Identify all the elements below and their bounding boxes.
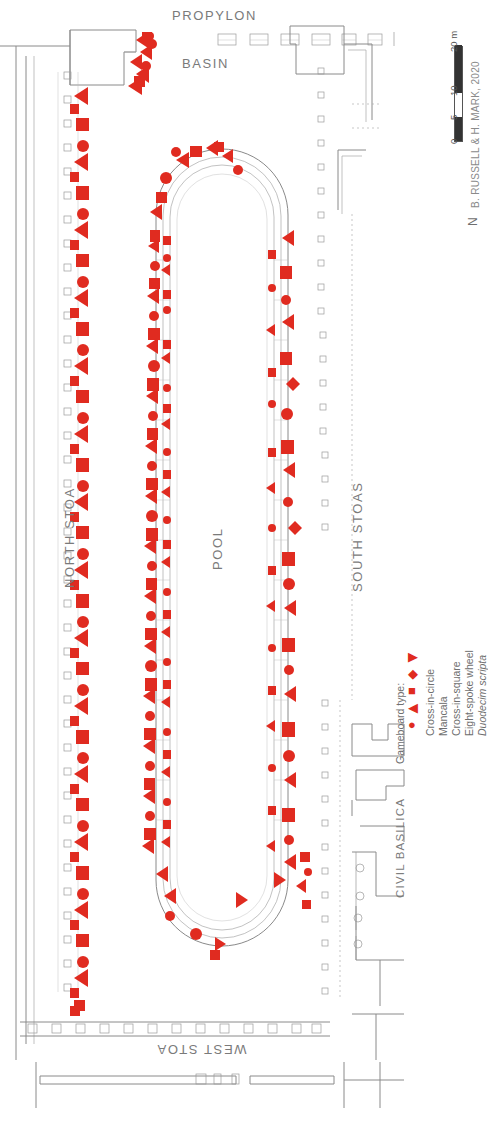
scale-block: 0 5 10 20 m B. RUSSELL & H. MARK, 2020 N	[404, 18, 479, 218]
scale-tick-0: 0	[448, 139, 459, 144]
scale-tick-20: 20 m	[448, 31, 459, 52]
credit-text: B. RUSSELL & H. MARK, 2020	[470, 61, 481, 208]
legend-marker-duodecim-scripta: ▶	[408, 650, 418, 663]
legend-marker-cross-in-square: ■	[408, 684, 416, 697]
label-pool: POOL	[210, 527, 225, 570]
legend-label-cross-in-circle: Cross-in-circle	[424, 669, 436, 736]
northeast-building	[290, 26, 382, 214]
legend-label-duodecim-scripta: Duodecim scripta	[476, 655, 488, 736]
legend: Gameboard type: ● ◀ ■ ◆ ▶ Cross-in-circl…	[388, 596, 478, 796]
gameboard-markers	[70, 32, 312, 1016]
scale-tick-10: 10	[448, 85, 459, 96]
legend-marker-eight-spoke-wheel: ◆	[408, 667, 418, 680]
legend-label-eight-spoke-wheel: Eight-spoke wheel	[463, 650, 475, 736]
south-stoas-colonnade	[318, 68, 328, 994]
label-basin: BASIN	[182, 56, 229, 71]
legend-title: Gameboard type:	[394, 683, 406, 764]
label-civil-basilica: CIVIL BASILICA	[394, 798, 406, 898]
scale-tick-5: 5	[448, 115, 459, 120]
legend-label-cross-in-square: Cross-in-square	[450, 661, 462, 736]
legend-label-mancala: Mancala	[437, 696, 449, 736]
label-north-stoa: NORTH STOA	[62, 487, 77, 588]
north-indicator: N	[466, 217, 480, 226]
legend-marker-mancala: ◀	[408, 701, 418, 714]
label-south-stoas: SOUTH STOAS	[350, 481, 365, 592]
propylon-building	[0, 30, 136, 85]
label-propylon: PROPYLON	[172, 8, 257, 23]
label-west-stoa: WEST STOA	[156, 1042, 247, 1057]
west-stoa-plan	[20, 1022, 404, 1108]
north-stoa-walls	[16, 46, 34, 1060]
legend-marker-cross-in-circle: ●	[408, 718, 416, 731]
